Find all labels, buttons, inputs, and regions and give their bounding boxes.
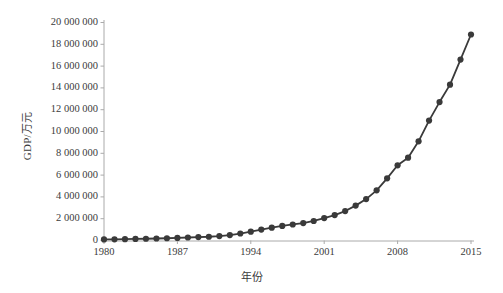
data-point-marker <box>195 234 201 240</box>
data-point-marker <box>185 234 191 240</box>
gdp-line-chart-figure: GDP/万元 02 000 0004 000 0006 000 0008 000… <box>0 0 503 293</box>
data-point-marker <box>415 138 421 144</box>
data-point-marker <box>122 236 128 242</box>
data-point-marker <box>258 227 264 233</box>
data-point-marker <box>237 230 243 236</box>
data-point-marker <box>206 234 212 240</box>
data-point-marker <box>384 175 390 181</box>
data-point-marker <box>101 236 107 242</box>
data-point-marker <box>457 56 463 62</box>
data-point-marker <box>300 220 306 226</box>
data-point-marker <box>153 235 159 241</box>
data-point-marker <box>321 215 327 221</box>
data-point-marker <box>174 235 180 241</box>
data-point-marker <box>332 212 338 218</box>
data-point-marker <box>227 232 233 238</box>
data-point-marker <box>468 31 474 37</box>
gdp-series-line <box>104 34 471 239</box>
data-point-marker <box>111 236 117 242</box>
data-point-marker <box>374 187 380 193</box>
data-point-marker <box>342 208 348 214</box>
data-point-marker <box>405 155 411 161</box>
data-point-marker <box>216 233 222 239</box>
data-point-marker <box>164 235 170 241</box>
data-point-marker <box>311 218 317 224</box>
data-point-marker <box>363 196 369 202</box>
data-point-marker <box>436 99 442 105</box>
data-point-marker <box>143 236 149 242</box>
data-point-marker <box>290 221 296 227</box>
gdp-series-markers <box>101 31 474 242</box>
data-point-marker <box>447 82 453 88</box>
data-point-marker <box>132 236 138 242</box>
data-point-marker <box>426 118 432 124</box>
plot-area <box>0 0 503 293</box>
y-axis-tick-marks <box>101 23 105 241</box>
data-point-marker <box>269 225 275 231</box>
data-point-marker <box>248 229 254 235</box>
data-point-marker <box>353 203 359 209</box>
data-point-marker <box>279 223 285 229</box>
data-point-marker <box>395 162 401 168</box>
